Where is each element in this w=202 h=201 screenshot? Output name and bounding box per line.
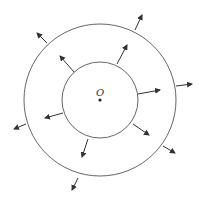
arrow-icon [60,56,74,72]
arrow-icon [135,15,142,30]
arrow-icon [37,33,47,43]
arrow-icon [176,84,192,86]
outer-arrow-group [14,15,192,190]
arrow-icon [138,90,160,94]
arrow-icon [117,45,127,64]
arrow-icon [82,139,88,157]
arrow-icon [163,146,175,153]
center-point [98,98,101,101]
center-label: O [96,87,104,98]
arrow-icon [14,124,26,129]
concentric-circles-diagram: O [0,0,202,201]
arrow-icon [72,178,78,190]
arrow-icon [133,124,149,135]
arrow-icon [45,113,63,118]
